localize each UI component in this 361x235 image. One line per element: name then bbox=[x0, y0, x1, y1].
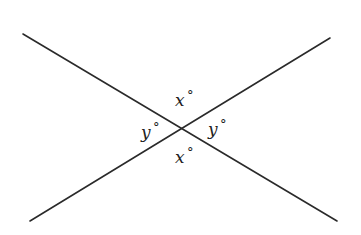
angle-variable-right: y bbox=[207, 119, 218, 139]
angle-label-top: x ° bbox=[175, 88, 194, 110]
degree-symbol-left: ° bbox=[153, 120, 160, 135]
degree-symbol-bottom: ° bbox=[187, 145, 194, 160]
angle-variable-bottom: x bbox=[175, 147, 185, 167]
angle-label-left: y ° bbox=[140, 120, 160, 142]
angle-variable-top: x bbox=[175, 90, 185, 110]
angle-label-bottom: x ° bbox=[175, 145, 194, 167]
angle-label-right: y ° bbox=[207, 117, 227, 139]
intersecting-lines-diagram: x ° y ° y ° x ° bbox=[0, 0, 361, 235]
degree-symbol-right: ° bbox=[220, 117, 227, 132]
degree-symbol-top: ° bbox=[187, 88, 194, 103]
diagram-svg: x ° y ° y ° x ° bbox=[0, 0, 361, 235]
angle-variable-left: y bbox=[140, 122, 151, 142]
